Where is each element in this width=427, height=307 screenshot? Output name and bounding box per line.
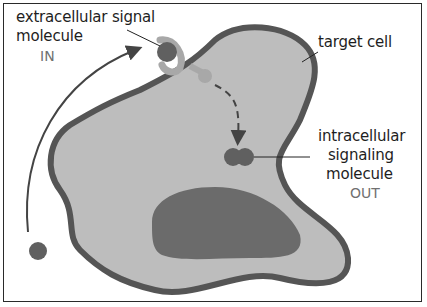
intracellular-molecule-right xyxy=(236,148,254,166)
out-label: OUT xyxy=(350,185,380,201)
intracellular-label-line3: molecule xyxy=(326,165,393,184)
in-label: IN xyxy=(40,48,55,64)
signal-leader-line xyxy=(127,30,160,46)
intracellular-label-line2: signaling xyxy=(328,146,394,165)
receptor-inner-domain xyxy=(198,69,212,83)
bound-signal-molecule xyxy=(157,42,177,62)
signal-label-line2: molecule xyxy=(16,27,83,46)
free-signal-molecule xyxy=(29,242,47,260)
signal-label-line1: extracellular signal xyxy=(16,8,155,27)
intracellular-label-line1: intracellular xyxy=(318,127,405,146)
target-cell-label: target cell xyxy=(318,33,392,52)
